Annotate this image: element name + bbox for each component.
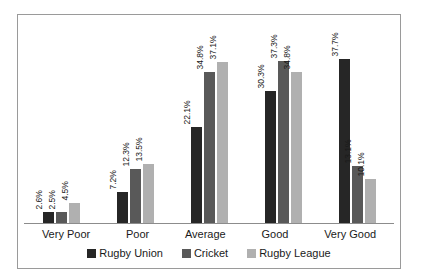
bar[interactable] <box>130 169 141 223</box>
category-label: Poor <box>126 228 149 240</box>
bar-value-label: 34.8% <box>283 45 292 69</box>
plot-area: 2.6%2.5%4.5%7.2%12.3%13.5%22.1%34.8%37.1… <box>18 15 400 268</box>
bar-slot: 37.7% <box>339 15 350 223</box>
bar-value-label: 37.1% <box>209 35 218 59</box>
bar[interactable] <box>56 212 67 223</box>
category-label: Good <box>261 228 288 240</box>
chart-frame: 2.6%2.5%4.5%7.2%12.3%13.5%22.1%34.8%37.1… <box>17 14 401 269</box>
bar-group: 30.3%37.3%34.8% <box>265 15 302 223</box>
bar-value-label: 30.3% <box>257 64 266 88</box>
bar-slot: 34.8% <box>291 15 302 223</box>
legend-item[interactable]: Rugby Union <box>87 247 163 259</box>
bar-slot: 10.1% <box>365 15 376 223</box>
bar-slot: 4.5% <box>69 15 80 223</box>
bar-slot: 13.5% <box>143 15 154 223</box>
bar-value-label: 34.8% <box>196 45 205 69</box>
bar-slot: 12.3% <box>130 15 141 223</box>
bar-value-label: 4.5% <box>61 181 70 200</box>
legend-label: Rugby League <box>259 247 331 259</box>
bar-slot: 7.2% <box>117 15 128 223</box>
bar-value-label: 13.1% <box>344 139 353 163</box>
bar-value-label: 12.3% <box>122 142 131 166</box>
legend-item[interactable]: Rugby League <box>247 247 331 259</box>
bar[interactable] <box>291 72 302 223</box>
chart-legend: Rugby UnionCricketRugby League <box>18 245 400 261</box>
bar[interactable] <box>117 192 128 223</box>
bar-group: 37.7%13.1%10.1% <box>339 15 376 223</box>
bar-value-label: 37.7% <box>331 32 340 56</box>
bar[interactable] <box>265 91 276 223</box>
bar-value-label: 37.3% <box>270 34 279 58</box>
category-label: Very Good <box>324 228 376 240</box>
bar-value-label: 10.1% <box>357 152 366 176</box>
bar[interactable] <box>365 179 376 223</box>
bar-value-label: 7.2% <box>109 170 118 189</box>
legend-swatch-icon <box>182 249 191 258</box>
bar[interactable] <box>278 61 289 223</box>
bar[interactable] <box>191 127 202 223</box>
legend-swatch-icon <box>247 249 256 258</box>
bar-value-label: 22.1% <box>183 100 192 124</box>
bar-groups: 2.6%2.5%4.5%7.2%12.3%13.5%22.1%34.8%37.1… <box>24 15 394 223</box>
legend-item[interactable]: Cricket <box>182 247 228 259</box>
bar-slot: 13.1% <box>352 15 363 223</box>
bar-group: 7.2%12.3%13.5% <box>117 15 154 223</box>
legend-swatch-icon <box>87 249 96 258</box>
legend-label: Rugby Union <box>99 247 163 259</box>
bar-value-label: 2.6% <box>35 190 44 209</box>
bar-slot: 37.1% <box>217 15 228 223</box>
category-axis-labels: Very PoorPoorAverageGoodVery Good <box>24 225 394 243</box>
bar[interactable] <box>204 72 215 223</box>
bar-value-label: 13.5% <box>135 137 144 161</box>
bar[interactable] <box>69 203 80 223</box>
legend-label: Cricket <box>194 247 228 259</box>
category-axis-line <box>24 223 394 224</box>
bar-group: 22.1%34.8%37.1% <box>191 15 228 223</box>
bar[interactable] <box>143 164 154 223</box>
bar[interactable] <box>43 212 54 223</box>
bar-group: 2.6%2.5%4.5% <box>43 15 80 223</box>
bar-value-label: 2.5% <box>48 190 57 209</box>
category-label: Very Poor <box>42 228 90 240</box>
category-label: Average <box>185 228 226 240</box>
bar[interactable] <box>217 62 228 223</box>
